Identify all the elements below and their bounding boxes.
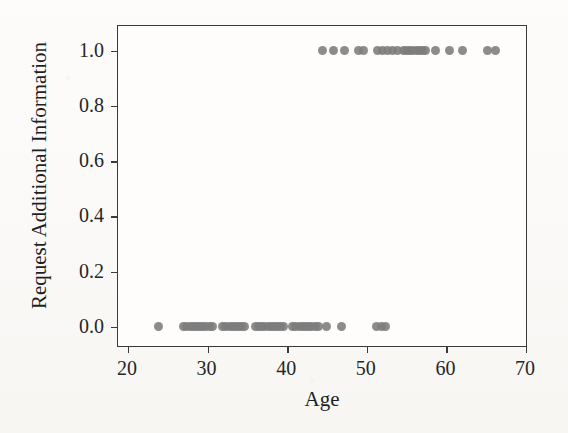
scatter-point [491, 46, 500, 55]
y-axis-tick-label: 0.8 [79, 94, 104, 117]
scatter-point [318, 46, 327, 55]
y-axis-tick-label: 0.0 [79, 314, 104, 337]
scatter-point [340, 46, 349, 55]
x-axis-tick [128, 346, 129, 353]
y-axis-tick [111, 327, 118, 328]
x-axis-tick [367, 346, 368, 353]
scatter-point [337, 322, 346, 331]
y-axis-tick-label: 0.2 [79, 259, 104, 282]
y-axis-tick-label: 1.0 [79, 38, 104, 61]
scatter-point [431, 46, 440, 55]
x-axis-tick [526, 346, 527, 353]
y-axis-tick-labels: 0.00.20.40.60.81.0 [0, 25, 104, 347]
scatter-point [381, 322, 390, 331]
x-axis-tick-label: 30 [197, 357, 217, 380]
scatter-point [421, 46, 430, 55]
x-axis-title: Age [117, 387, 527, 412]
x-axis-tick-labels: 203040506070 [117, 357, 527, 385]
scatter-point [154, 322, 163, 331]
y-axis-tick [111, 161, 118, 162]
y-axis-tick [111, 106, 118, 107]
x-axis-tick [208, 346, 209, 353]
y-axis-tick [111, 51, 118, 52]
x-axis-tick-label: 20 [117, 357, 137, 380]
x-axis-tick-label: 40 [276, 357, 296, 380]
scatter-point [240, 322, 249, 331]
x-axis-tick-label: 60 [435, 357, 455, 380]
x-axis-tick [287, 346, 288, 353]
scatter-point [445, 46, 454, 55]
y-axis-tick-label: 0.4 [79, 204, 104, 227]
x-axis-tick [446, 346, 447, 353]
scatter-point [208, 322, 217, 331]
scatter-point [314, 322, 323, 331]
scatter-point [458, 46, 467, 55]
y-axis-tick-label: 0.6 [79, 149, 104, 172]
plot-area [117, 25, 527, 347]
x-axis-tick-label: 50 [356, 357, 376, 380]
y-axis-tick [111, 216, 118, 217]
scatter-point [322, 322, 331, 331]
scatter-point [329, 46, 338, 55]
scatter-point [279, 322, 288, 331]
scatter-point [359, 46, 368, 55]
x-axis-tick-label: 70 [515, 357, 535, 380]
scatter-plot-figure: Request Additional Information 0.00.20.4… [0, 0, 568, 433]
y-axis-tick [111, 272, 118, 273]
